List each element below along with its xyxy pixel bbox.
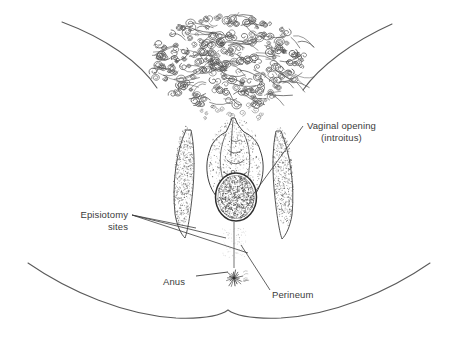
thigh-right xyxy=(303,24,392,90)
buttock-contour xyxy=(28,263,430,318)
pubic-hair xyxy=(149,12,314,120)
label-vaginal-opening-line1: Vaginal opening xyxy=(307,120,376,131)
label-vaginal-opening-line2: (introitus) xyxy=(307,132,376,144)
vaginal-introitus xyxy=(216,173,257,221)
anatomical-figure: Vaginal opening (introitus) Episiotomy s… xyxy=(0,0,459,358)
anus xyxy=(227,270,249,287)
label-episiotomy-sites: Episiotomy sites xyxy=(60,209,128,232)
thigh-left xyxy=(62,22,157,88)
label-perineum: Perineum xyxy=(272,289,313,301)
label-anus: Anus xyxy=(163,276,185,288)
labium-majus-right xyxy=(272,127,293,239)
labium-majus-left xyxy=(173,126,195,238)
label-episiotomy-line2: sites xyxy=(60,221,128,233)
illustration-canvas xyxy=(0,0,459,358)
label-episiotomy-line1: Episiotomy xyxy=(81,209,128,220)
label-vaginal-opening: Vaginal opening (introitus) xyxy=(307,120,376,143)
